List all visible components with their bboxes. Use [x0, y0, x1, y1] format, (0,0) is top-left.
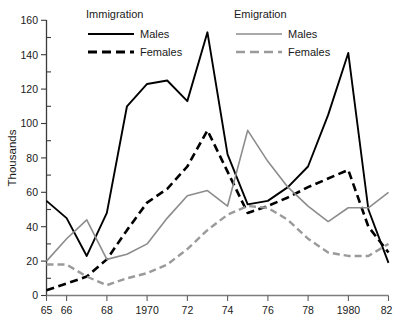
y-axis-tick-labels: 0 20 40 60 80 100 120 140 160: [20, 14, 38, 301]
y-tick-label-80: 80: [26, 152, 38, 164]
series-line-immigration-females: [47, 130, 389, 290]
series-line-immigration-males: [47, 32, 389, 262]
x-axis-ticks: [47, 296, 389, 302]
x-tick-label-1970: 1970: [135, 304, 159, 316]
y-tick-label-20: 20: [26, 255, 38, 267]
x-tick-label-82: 82: [381, 304, 393, 316]
line-chart: 0 20 40 60 80 100 120 140 160 65 66 68 1…: [0, 0, 399, 334]
y-tick-label-40: 40: [26, 221, 38, 233]
x-tick-label-1980: 1980: [337, 304, 361, 316]
x-tick-label-76: 76: [262, 304, 274, 316]
series-group: [47, 32, 389, 290]
y-tick-label-0: 0: [32, 289, 38, 301]
series-line-emigration-females: [47, 206, 389, 285]
y-tick-label-120: 120: [20, 83, 38, 95]
x-tick-label-68: 68: [101, 304, 113, 316]
x-tick-label-65: 65: [41, 304, 53, 316]
y-tick-label-160: 160: [20, 14, 38, 26]
y-axis-minor-ticks: [47, 38, 52, 279]
x-tick-label-66: 66: [61, 304, 73, 316]
y-tick-label-100: 100: [20, 117, 38, 129]
legend-immigration-males-label: Males: [140, 28, 170, 40]
legend-immigration-females-label: Females: [140, 46, 183, 58]
x-axis-tick-labels: 65 66 68 1970 72 74 76 78 1980 82: [41, 304, 393, 316]
x-tick-label-78: 78: [302, 304, 314, 316]
x-tick-label-72: 72: [182, 304, 194, 316]
legend-emigration: Emigration Males Females: [234, 8, 331, 58]
legend-emigration-males-label: Males: [288, 28, 318, 40]
chart-canvas: 0 20 40 60 80 100 120 140 160 65 66 68 1…: [0, 0, 399, 334]
legend-immigration: Immigration Males Females: [86, 8, 183, 58]
legend-immigration-title: Immigration: [86, 8, 143, 20]
legend-emigration-females-label: Females: [288, 46, 331, 58]
x-tick-label-74: 74: [222, 304, 234, 316]
y-axis-major-ticks: [41, 20, 47, 295]
y-axis-title: Thousands: [6, 129, 18, 186]
legend-emigration-title: Emigration: [234, 8, 287, 20]
y-tick-label-140: 140: [20, 49, 38, 61]
y-tick-label-60: 60: [26, 186, 38, 198]
